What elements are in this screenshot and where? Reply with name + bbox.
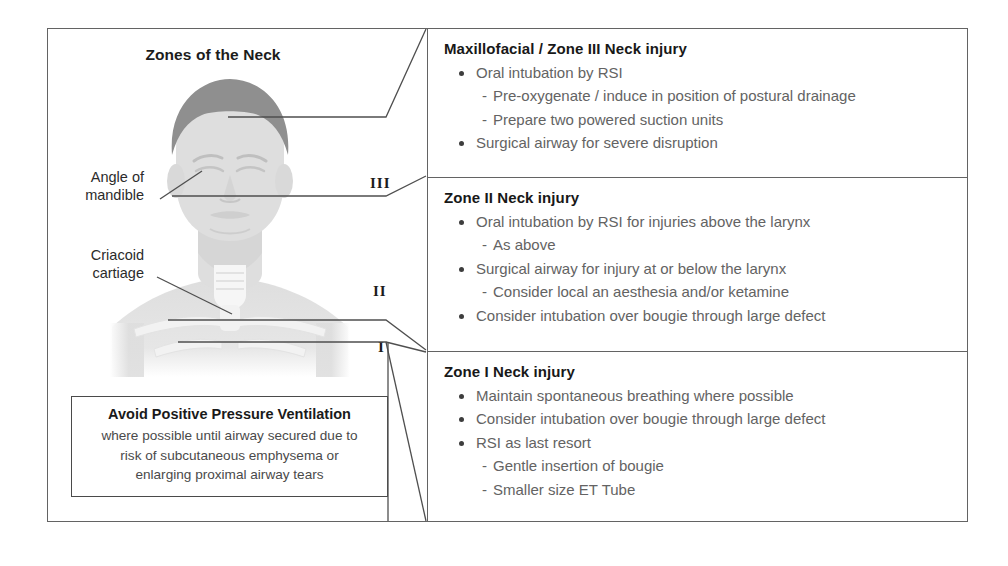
warning-box: Avoid Positive Pressure Ventilation wher… [71, 396, 388, 497]
label-cricoid-cartilage: Criacoid cartiage [26, 247, 144, 283]
panel-title: Zone I Neck injury [444, 363, 953, 380]
zone-marker-III: III [370, 175, 391, 192]
list-item: Smaller size ET Tube [444, 478, 953, 501]
list-item: Surgical airway for severe disruption [444, 131, 953, 154]
list-item: As above [444, 233, 953, 256]
diagram-frame: Zones of the Neck [47, 28, 968, 522]
list-item: Consider intubation over bougie through … [444, 407, 953, 430]
list-item: Oral intubation by RSI for injuries abov… [444, 210, 953, 233]
panel-bullet-list: Oral intubation by RSI for injuries abov… [444, 210, 953, 327]
warning-title: Avoid Positive Pressure Ventilation [82, 406, 377, 422]
warning-line-2: risk of subcutaneous emphysema or [82, 446, 377, 466]
panel-bullet-list: Maintain spontaneous breathing where pos… [444, 384, 953, 501]
list-item: Surgical airway for injury at or below t… [444, 257, 953, 280]
list-item: Pre-oxygenate / induce in position of po… [444, 84, 953, 107]
list-item: Maintain spontaneous breathing where pos… [444, 384, 953, 407]
list-item: Gentle insertion of bougie [444, 454, 953, 477]
list-item: Prepare two powered suction units [444, 108, 953, 131]
warning-line-3: enlarging proximal airway tears [82, 465, 377, 485]
list-item: Oral intubation by RSI [444, 61, 953, 84]
zone-marker-II: II [373, 283, 387, 300]
head-shape [167, 79, 293, 241]
list-item: RSI as last resort [444, 431, 953, 454]
page-title: Zones of the Neck [48, 46, 378, 64]
panel-zone-2: Zone II Neck injury Oral intubation by R… [428, 177, 967, 351]
list-item: Consider local an aesthesia and/or ketam… [444, 280, 953, 303]
panel-bullet-list: Oral intubation by RSI Pre-oxygenate / i… [444, 61, 953, 155]
warning-line-1: where possible until airway secured due … [82, 426, 377, 446]
label-angle-of-mandible: Angle of mandible [26, 169, 144, 205]
zone-marker-I: I [378, 339, 385, 356]
panel-zone-1: Zone I Neck injury Maintain spontaneous … [428, 351, 967, 521]
neck-anatomy-illustration [110, 77, 350, 377]
illustration-pane: Zones of the Neck [48, 29, 426, 521]
diagram-root: Zones of the Neck [0, 0, 1008, 566]
panels-column: Maxillofacial / Zone III Neck injury Ora… [427, 29, 967, 521]
panel-zone-3: Maxillofacial / Zone III Neck injury Ora… [428, 29, 967, 177]
panel-title: Zone II Neck injury [444, 189, 953, 206]
list-item: Consider intubation over bougie through … [444, 304, 953, 327]
panel-title: Maxillofacial / Zone III Neck injury [444, 40, 953, 57]
